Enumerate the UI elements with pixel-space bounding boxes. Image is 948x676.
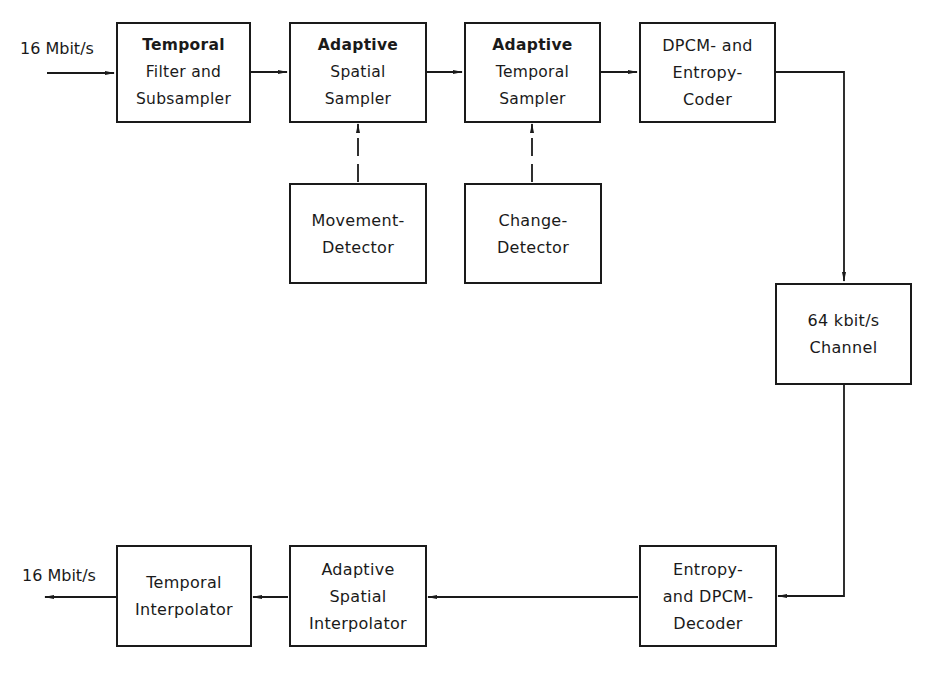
block-label: Temporal: [146, 569, 222, 596]
change-detector-block: Change- Detector: [464, 183, 602, 284]
block-label: Entropy-: [672, 59, 742, 86]
output-rate-label: 16 Mbit/s: [22, 566, 96, 585]
block-label: Temporal: [142, 32, 225, 59]
block-label: Detector: [497, 234, 569, 261]
block-label: Adaptive: [492, 32, 572, 59]
block-label: Filter and: [146, 59, 221, 86]
block-label: Interpolator: [309, 610, 407, 637]
block-label: and DPCM-: [663, 583, 754, 610]
block-label: Temporal: [496, 59, 569, 86]
block-label: Decoder: [673, 610, 742, 637]
arrow-channel-to-decoder: [778, 385, 844, 596]
block-label: DPCM- and: [662, 32, 753, 59]
input-rate-label: 16 Mbit/s: [20, 39, 94, 58]
block-label: Spatial: [329, 583, 386, 610]
entropy-dpcm-decoder-block: Entropy- and DPCM- Decoder: [639, 545, 777, 647]
temporal-filter-subsampler-block: Temporal Filter and Subsampler: [116, 22, 251, 123]
adaptive-spatial-interpolator-block: Adaptive Spatial Interpolator: [289, 545, 427, 647]
block-label: Detector: [322, 234, 394, 261]
block-label: Adaptive: [318, 32, 398, 59]
block-label: Interpolator: [135, 596, 233, 623]
block-label: Coder: [683, 86, 732, 113]
block-label: Entropy-: [673, 556, 743, 583]
dpcm-entropy-coder-block: DPCM- and Entropy- Coder: [639, 22, 776, 123]
block-label: Sampler: [499, 86, 566, 113]
block-label: Sampler: [325, 86, 392, 113]
temporal-interpolator-block: Temporal Interpolator: [116, 545, 252, 647]
block-label: Channel: [810, 334, 878, 361]
block-label: 64 kbit/s: [807, 307, 879, 334]
adaptive-temporal-sampler-block: Adaptive Temporal Sampler: [464, 22, 601, 123]
movement-detector-block: Movement- Detector: [289, 183, 427, 284]
arrow-coder-to-channel: [776, 72, 844, 281]
block-label: Spatial: [330, 59, 385, 86]
block-label: Subsampler: [136, 86, 231, 113]
block-label: Change-: [498, 207, 567, 234]
block-label: Movement-: [311, 207, 404, 234]
adaptive-spatial-sampler-block: Adaptive Spatial Sampler: [289, 22, 427, 123]
channel-block: 64 kbit/s Channel: [775, 283, 912, 385]
block-label: Adaptive: [321, 556, 394, 583]
